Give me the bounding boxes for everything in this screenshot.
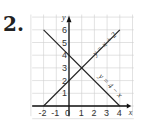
y-axis-arrow-icon [67, 16, 72, 22]
x-tick-label: 1 [79, 108, 84, 118]
y-tick-label: 1 [62, 88, 67, 98]
y-axis-label: y [61, 13, 66, 22]
x-tick-label: 2 [91, 108, 96, 118]
x-tick-label: -1 [51, 108, 59, 118]
y-tick-label: 6 [62, 25, 67, 35]
series-label: y = 4 − x [96, 71, 125, 100]
x-tick-label: 4 [117, 108, 122, 118]
x-tick-label: 0 [65, 108, 70, 118]
x-tick-label: -2 [39, 108, 47, 118]
line-graph: -2-101234123456xyy = x + 2y = 4 − x [0, 0, 143, 121]
y-tick-label: 3 [62, 63, 67, 73]
x-tick-label: 3 [104, 108, 109, 118]
y-tick-label: 5 [62, 38, 67, 48]
x-axis-label: x [128, 108, 133, 117]
